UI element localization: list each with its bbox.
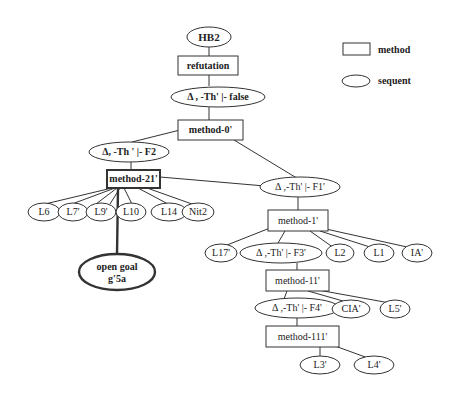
seq-f4-label: Δ ,-Th' |- F4' [255, 303, 339, 313]
node-open-goal [79, 254, 155, 290]
legend-sequent-label: sequent [378, 76, 411, 86]
l3-label: L3' [300, 360, 340, 370]
method-1-label: method-1' [268, 216, 328, 226]
seq-f2-label: Δ, -Th ' |- F2 [89, 147, 169, 157]
method-11-label: method-11' [266, 276, 329, 286]
l10-label: L10 [116, 207, 146, 217]
edge [124, 188, 132, 204]
seq-f3-label: Δ ,-Th' |- F3' [240, 248, 322, 258]
edge [234, 140, 300, 180]
open-goal-id: g'5a [79, 274, 155, 284]
open-goal-label: open goal [79, 262, 155, 272]
edge [160, 177, 265, 186]
seq-false-label: Δ , -Th' |- false [171, 92, 265, 102]
edge [96, 188, 117, 204]
l1-label: L1 [364, 248, 394, 258]
edge [132, 130, 180, 142]
edge [335, 346, 368, 358]
edge-open-goal [117, 188, 118, 255]
cia-label: CIA' [332, 304, 370, 314]
legend-sequent-ellipse [342, 75, 370, 87]
edge [278, 231, 285, 243]
l9-label: L9' [86, 207, 116, 217]
method-0-label: method-0' [178, 125, 243, 135]
edge [310, 231, 334, 248]
legend-method-label: method [378, 45, 410, 55]
l4-label: L4' [354, 360, 394, 370]
seq-f1-label: Δ ,-Th' |- F1' [260, 182, 340, 192]
l7-label: L7' [58, 207, 88, 217]
refutation-label: refutation [178, 61, 238, 71]
l2-label: L2 [326, 248, 354, 258]
method-111-label: method-111' [266, 332, 339, 342]
l17-label: L17' [205, 248, 237, 258]
hb2-label: HB2 [189, 32, 229, 43]
method-21-label: method-21' [105, 174, 162, 184]
ia-label: IA' [402, 248, 432, 258]
l6-label: L6 [28, 207, 60, 217]
nit2-label: Nit2 [182, 207, 214, 217]
l5-label: L5' [380, 304, 410, 314]
legend-method-rect [343, 43, 370, 55]
